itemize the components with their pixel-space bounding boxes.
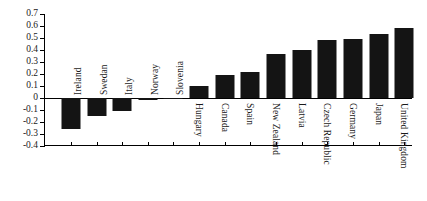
- x-axis-category-label: Germany: [348, 103, 358, 139]
- x-axis-tick: [353, 142, 354, 146]
- bar-group: Hungary: [186, 14, 212, 146]
- x-axis-tick: [97, 142, 98, 146]
- bar-group: Canada: [212, 14, 238, 146]
- bar: [138, 98, 157, 100]
- y-axis-tick-label: 0: [33, 93, 38, 103]
- x-axis-tick: [71, 142, 72, 146]
- x-axis-category-label: Norway: [151, 64, 161, 95]
- x-axis-category-label: Czech Republic: [322, 103, 332, 165]
- bar-group: Latvia: [289, 14, 315, 146]
- bar-group: Slovenia: [161, 14, 187, 146]
- bar-group: Ireland: [58, 14, 84, 146]
- bar-group: United Kingdom: [391, 14, 417, 146]
- bar: [190, 86, 209, 98]
- x-axis-category-label: Swedan: [100, 64, 110, 95]
- x-axis-category-label: Ireland: [74, 67, 84, 95]
- x-axis-category-label: Japan: [373, 103, 383, 125]
- bar-group: Japan: [366, 14, 392, 146]
- x-axis-category-label: United Kingdom: [399, 103, 409, 169]
- x-axis-category-label: New Zealand: [271, 103, 281, 155]
- y-axis-tick-label: 0.1: [26, 81, 38, 91]
- x-axis-category-label: Slovenia: [176, 61, 186, 95]
- y-axis-tick-label: 0.7: [26, 9, 38, 19]
- y-axis-tick-label: -0.3: [23, 129, 38, 139]
- bar-group: Italy: [109, 14, 135, 146]
- bar-group: Spain: [238, 14, 264, 146]
- bar: [318, 40, 337, 98]
- bar-group: Norway: [135, 14, 161, 146]
- y-axis-tick-label: 0.6: [26, 21, 38, 31]
- bar: [113, 98, 132, 111]
- x-axis-tick: [199, 142, 200, 146]
- bar-chart: 0.70.60.50.40.30.20.10-0.1-0.2-0.3-0.4 I…: [0, 0, 427, 201]
- x-axis-category-label: Hungary: [194, 103, 204, 137]
- bar: [292, 50, 311, 98]
- x-axis-tick: [225, 142, 226, 146]
- x-axis-category-label: Canada: [219, 103, 229, 132]
- y-axis-tick-label: 0.4: [26, 45, 38, 55]
- bar-group: Germany: [340, 14, 366, 146]
- bar-group: Swedan: [84, 14, 110, 146]
- bar-group: Czech Republic: [315, 14, 341, 146]
- y-axis-tick-label: -0.4: [23, 141, 38, 151]
- x-axis-category-label: Italy: [125, 77, 135, 95]
- x-axis-tick: [302, 142, 303, 146]
- x-axis-tick: [148, 142, 149, 146]
- bar-group: New Zealand: [263, 14, 289, 146]
- y-axis-tick: [40, 146, 45, 147]
- x-axis-category-label: Spain: [245, 103, 255, 125]
- bar: [87, 98, 106, 116]
- y-axis-tick-label: 0.2: [26, 69, 38, 79]
- bar: [395, 28, 414, 98]
- plot-area: 0.70.60.50.40.30.20.10-0.1-0.2-0.3-0.4 I…: [44, 14, 412, 146]
- x-axis-tick: [122, 142, 123, 146]
- bar: [164, 98, 183, 99]
- y-axis-tick-label: 0.3: [26, 57, 38, 67]
- x-axis-tick: [379, 142, 380, 146]
- y-axis-tick-label: -0.2: [23, 117, 38, 127]
- x-axis-category-label: Latvia: [296, 103, 306, 128]
- bar: [215, 75, 234, 98]
- y-axis-tick-label: 0.5: [26, 33, 38, 43]
- x-axis-tick: [173, 142, 174, 146]
- y-axis-tick-label: -0.1: [23, 105, 38, 115]
- x-axis-tick: [250, 142, 251, 146]
- bar: [61, 98, 80, 129]
- bar: [344, 39, 363, 98]
- bar: [241, 72, 260, 98]
- bar: [369, 34, 388, 98]
- bar: [267, 54, 286, 98]
- bar-series: IrelandSwedanItalyNorwaySloveniaHungaryC…: [44, 14, 412, 146]
